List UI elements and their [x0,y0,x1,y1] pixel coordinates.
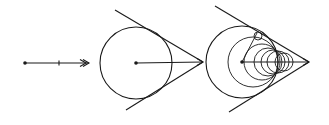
center-point-dot [134,61,138,65]
tangent-line-top [115,10,203,62]
tangent-line-bottom [229,62,309,112]
tangent-line-bottom [126,62,203,110]
axis-line [136,62,203,63]
start-point-dot [23,61,27,65]
panel-cone-nested-circles [206,6,309,112]
center-point-dot [240,60,244,64]
diagram-canvas [0,0,329,125]
panel-cone-single-circle [100,10,203,110]
panel-ray [23,60,89,67]
